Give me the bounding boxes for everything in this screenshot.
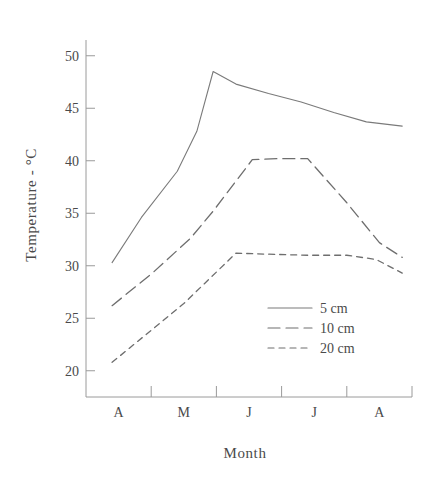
series-line-10-cm xyxy=(112,159,402,306)
x-tick-label: A xyxy=(374,405,385,420)
y-tick-label: 25 xyxy=(65,311,79,326)
x-tick-label: M xyxy=(178,405,191,420)
y-tick-label: 30 xyxy=(65,259,79,274)
legend-label-10-cm: 10 cm xyxy=(320,321,355,336)
series-line-5-cm xyxy=(112,72,402,263)
y-tick-label: 50 xyxy=(65,49,79,64)
y-tick-label: 20 xyxy=(65,364,79,379)
chart-canvas: Temperature - °C Month 20253035404550 AM… xyxy=(0,0,442,483)
legend-label-5-cm: 5 cm xyxy=(320,301,348,316)
x-tick-label: J xyxy=(311,405,317,420)
x-tick-label: J xyxy=(246,405,252,420)
temperature-line-chart: Temperature - °C Month 20253035404550 AM… xyxy=(0,0,442,483)
y-tick-label: 40 xyxy=(65,154,79,169)
chart-legend: 5 cm10 cm20 cm xyxy=(268,301,355,356)
series-group xyxy=(112,72,402,363)
legend-label-20-cm: 20 cm xyxy=(320,341,355,356)
x-axis-title: Month xyxy=(223,445,266,461)
y-tick-label: 35 xyxy=(65,206,79,221)
x-tick-label: A xyxy=(114,405,125,420)
y-tick-label: 45 xyxy=(65,101,79,116)
x-axis-ticks: AMJJA xyxy=(114,386,412,420)
y-axis-title: Temperature - °C xyxy=(23,148,39,262)
y-axis-ticks: 20253035404550 xyxy=(65,49,95,379)
